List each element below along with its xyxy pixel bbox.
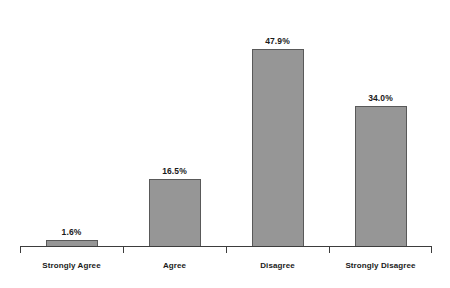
x-axis-label-disagree: Disagree <box>226 262 329 270</box>
bar-agree <box>149 179 201 247</box>
bar-group-disagree: 47.9% <box>226 17 329 247</box>
x-axis-label-strongly-agree: Strongly Agree <box>20 262 123 270</box>
x-axis-tick <box>226 247 227 253</box>
bar-value-strongly-agree: 1.6% <box>62 228 82 237</box>
x-axis-tick <box>329 247 330 253</box>
bar-disagree <box>252 49 304 247</box>
bar-group-agree: 16.5% <box>123 17 226 247</box>
x-axis-tick <box>431 247 432 253</box>
bar-strongly-disagree <box>355 106 407 247</box>
bar-value-strongly-disagree: 34.0% <box>368 94 393 103</box>
bar-group-strongly-agree: 1.6% <box>20 17 123 247</box>
bar-value-disagree: 47.9% <box>265 37 290 46</box>
bar-group-strongly-disagree: 34.0% <box>329 17 432 247</box>
x-axis-label-agree: Agree <box>123 262 226 270</box>
bar-value-agree: 16.5% <box>162 167 187 176</box>
x-axis-tick <box>123 247 124 253</box>
x-axis-tick <box>20 247 21 253</box>
x-axis-label-strongly-disagree: Strongly Disagree <box>329 262 432 270</box>
bar-chart: 1.6% 16.5% 47.9% 34.0% Strongly Agree Ag… <box>0 0 450 288</box>
